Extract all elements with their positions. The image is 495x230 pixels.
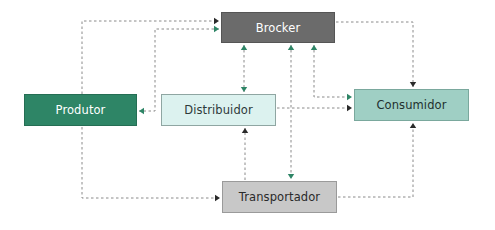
arrowhead-icon bbox=[241, 45, 247, 50]
node-produtor[interactable]: Produtor bbox=[24, 94, 137, 126]
node-consumidor-label: Consumidor bbox=[376, 98, 446, 112]
node-brocker-label: Brocker bbox=[256, 21, 300, 35]
node-transportador[interactable]: Transportador bbox=[222, 181, 337, 213]
node-produtor-label: Produtor bbox=[56, 103, 106, 117]
edge-distribuidor-to-consumidor bbox=[277, 105, 352, 111]
arrowhead-icon bbox=[242, 128, 248, 133]
node-distribuidor-label: Distribuidor bbox=[184, 103, 253, 117]
edge-brocker-to-consumidor bbox=[336, 22, 416, 87]
arrowhead-icon bbox=[410, 82, 416, 87]
edge-transportador-to-distribuidor bbox=[242, 128, 248, 180]
edge-produtor-to-transportador bbox=[82, 127, 220, 201]
edge-brocker-distribuidor bbox=[241, 45, 247, 92]
edge-transportador-to-consumidor bbox=[338, 123, 416, 197]
edge-brocker-consumidor-green bbox=[311, 45, 352, 100]
arrowhead-icon bbox=[214, 26, 219, 32]
node-consumidor[interactable]: Consumidor bbox=[354, 89, 469, 121]
arrowhead-icon bbox=[214, 18, 219, 24]
node-transportador-label: Transportador bbox=[239, 190, 320, 204]
arrowhead-icon bbox=[215, 195, 220, 201]
arrowhead-icon bbox=[139, 108, 144, 114]
node-brocker[interactable]: Brocker bbox=[221, 12, 335, 43]
arrowhead-icon bbox=[311, 45, 317, 50]
arrowhead-icon bbox=[347, 105, 352, 111]
arrowhead-icon bbox=[241, 87, 247, 92]
edge-brocker-transportador bbox=[288, 45, 294, 179]
supply-chain-diagram: Brocker Produtor Distribuidor Consumidor… bbox=[0, 0, 495, 230]
arrowhead-icon bbox=[288, 45, 294, 50]
arrowhead-icon bbox=[288, 174, 294, 179]
arrowhead-icon bbox=[410, 123, 416, 128]
node-distribuidor[interactable]: Distribuidor bbox=[161, 94, 276, 126]
arrowhead-icon bbox=[347, 94, 352, 100]
